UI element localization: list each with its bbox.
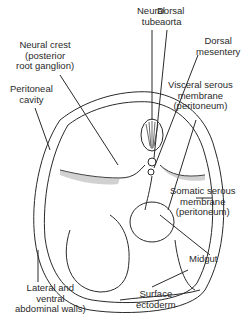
label-dorsal-mesentery: Dorsal mesentery (196, 36, 240, 57)
label-somatic-serous-membrane: Somatic serous membrane (peritoneum) (170, 186, 235, 218)
label-surface-ectoderm: Surface ectoderm (136, 289, 176, 310)
midgut-shape (130, 202, 174, 242)
label-visceral-serous-membrane: Visceral serous membrane (peritoneum) (168, 80, 233, 112)
label-midgut: Midgut (189, 254, 218, 265)
label-neural-crest: Neural crest (posterior root ganglion) (16, 40, 74, 72)
label-peritoneal-cavity: Peritoneal cavity (10, 84, 53, 105)
label-dorsal-aorta: Dorsal aorta (157, 6, 184, 27)
label-lateral-ventral-walls: Lateral and ventral abdominal walls) (15, 283, 86, 315)
